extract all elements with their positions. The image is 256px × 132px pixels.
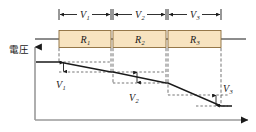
- dimension-v2: V 2: [113, 9, 166, 21]
- circuit-row: R 1 R 2 R 3: [35, 31, 246, 48]
- resistor-r3[interactable]: R 3: [168, 31, 221, 48]
- dimension-v3: V 3: [168, 9, 221, 21]
- reference-lines: [59, 62, 228, 106]
- graph-axes: 電圧: [9, 44, 248, 120]
- drop-v3: V 3: [216, 83, 234, 106]
- figure-container: V 1 V 2 V 3: [0, 0, 256, 132]
- drop-v1-label-sub: 1: [63, 84, 66, 91]
- dimension-band: V 1 V 2 V 3: [59, 9, 221, 21]
- y-axis-label: 電圧: [9, 44, 29, 55]
- resistor-r2-label: R: [134, 34, 141, 45]
- resistor-r3-label: R: [189, 34, 196, 45]
- resistor-r2[interactable]: R 2: [113, 31, 166, 48]
- drop-measurements: V 1 V 2 V 3: [56, 63, 234, 106]
- dimension-v2-label-sub: 2: [142, 14, 146, 21]
- dimension-v3-label-sub: 3: [196, 14, 201, 21]
- resistor-r1[interactable]: R 1: [59, 31, 111, 48]
- dimension-v1: V 1: [59, 9, 111, 21]
- drop-v1: V 1: [56, 63, 66, 92]
- drop-v2-label-sub: 2: [136, 97, 140, 104]
- dimension-v1-label-sub: 1: [87, 14, 90, 21]
- drop-v3-label-sub: 3: [229, 88, 234, 95]
- resistor-r1-label-sub: 1: [87, 39, 90, 46]
- resistor-voltage-diagram: V 1 V 2 V 3: [0, 0, 256, 132]
- resistor-r1-label: R: [80, 34, 87, 45]
